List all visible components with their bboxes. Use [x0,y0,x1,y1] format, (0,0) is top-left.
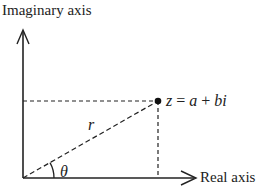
a-variable: a [189,92,197,109]
equals-sign: = [176,92,185,109]
angle-arc [50,163,54,178]
z-variable: z [166,92,172,109]
plus-sign: + [201,92,210,109]
point-z-label: z = a + bi [166,93,227,109]
complex-plane-diagram: Imaginary axis Real axis z = a + bi r θ [0,0,269,196]
angle-label: θ [60,164,68,180]
imaginary-axis-label: Imaginary axis [2,3,92,18]
point-z-marker [155,98,162,105]
diagram-svg [0,0,269,196]
radius-line [23,101,158,178]
bi-term: bi [214,92,226,109]
modulus-label: r [88,117,94,133]
real-axis-label: Real axis [200,170,255,185]
